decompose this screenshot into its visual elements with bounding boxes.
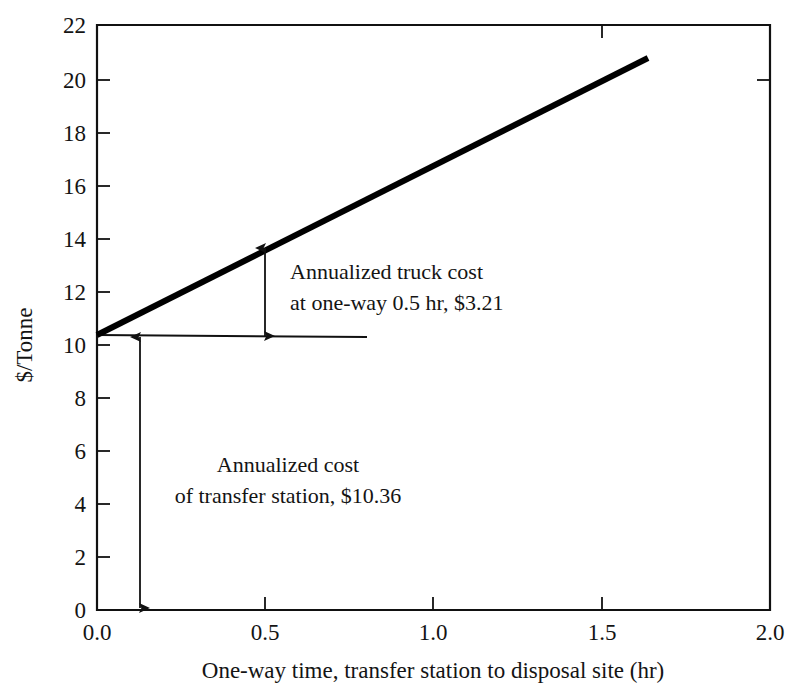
x-tick-label-1p5: 1.5 xyxy=(588,620,617,645)
transfer-station-annotation-line1: Annualized cost xyxy=(217,452,359,477)
truck-cost-annotation-line1: Annualized truck cost xyxy=(290,259,483,284)
chart-background xyxy=(0,0,794,689)
y-tick-label-6: 6 xyxy=(75,439,87,464)
y-tick-label-10: 10 xyxy=(63,333,86,358)
transfer-station-annotation-line2: of transfer station, $10.36 xyxy=(175,483,402,508)
x-tick-label-2p0: 2.0 xyxy=(756,620,785,645)
y-tick-label-18: 18 xyxy=(63,121,86,146)
x-axis-title: One-way time, transfer station to dispos… xyxy=(202,658,664,683)
y-tick-label-2: 2 xyxy=(75,545,87,570)
y-tick-label-4: 4 xyxy=(75,492,87,517)
y-tick-label-16: 16 xyxy=(63,174,86,199)
chart-figure: 0 2 4 6 8 10 12 14 16 18 20 22 0.0 xyxy=(0,0,794,689)
y-axis-title: $/Tonne xyxy=(12,307,37,382)
y-tick-label-14: 14 xyxy=(63,227,87,252)
truck-cost-annotation-line2: at one-way 0.5 hr, $3.21 xyxy=(290,290,504,315)
x-tick-label-1p0: 1.0 xyxy=(419,620,448,645)
y-tick-label-22: 22 xyxy=(63,13,86,38)
y-tick-label-8: 8 xyxy=(75,386,87,411)
y-tick-label-20: 20 xyxy=(63,68,86,93)
x-tick-label-0p5: 0.5 xyxy=(251,620,280,645)
y-tick-label-12: 12 xyxy=(63,280,86,305)
cost-vs-onewaytime-line-chart: 0 2 4 6 8 10 12 14 16 18 20 22 0.0 xyxy=(0,0,794,689)
x-tick-label-0p0: 0.0 xyxy=(83,620,112,645)
